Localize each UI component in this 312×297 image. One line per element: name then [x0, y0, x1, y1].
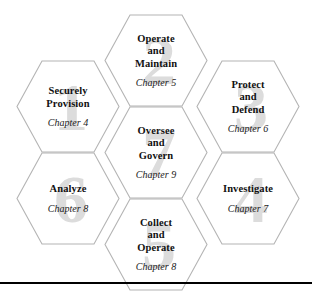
- hexagon-title: Operate and Maintain: [135, 33, 177, 71]
- hexagon-protect-and-defend[interactable]: 3 Protect and Defend Chapter 6: [196, 60, 300, 153]
- hexagon-title-line: Defend: [231, 104, 264, 117]
- hexagon-chapter-label: Chapter 8: [136, 261, 176, 272]
- hexagon-title-line: Maintain: [135, 58, 177, 71]
- hexagon-chapter-label: Chapter 9: [136, 169, 176, 180]
- hexagon-chapter-label: Chapter 5: [136, 77, 176, 88]
- hexagon-title: Securely Provision: [46, 85, 89, 110]
- hexagon-title-line: Investigate: [223, 183, 273, 196]
- hexagon-chapter-label: Chapter 6: [228, 123, 268, 134]
- hexagon-title: Analyze: [50, 183, 87, 196]
- hexagon-content: Investigate Chapter 7: [196, 152, 300, 245]
- hexagon-title-line: Operate: [137, 242, 174, 255]
- hexagon-operate-and-maintain[interactable]: 2 Operate and Maintain Chapter 5: [104, 14, 208, 107]
- hexagon-title: Collect and Operate: [137, 217, 174, 255]
- hexagon-investigate[interactable]: 4 Investigate Chapter 7: [196, 152, 300, 245]
- hexagon-title-line: Provision: [46, 98, 89, 111]
- hexagon-title-line: and: [231, 91, 264, 104]
- hexagon-title-line: Securely: [46, 85, 89, 98]
- hexagon-title-line: Govern: [138, 150, 175, 163]
- hexagon-title: Investigate: [223, 183, 273, 196]
- bottom-horizontal-rule: [0, 282, 312, 284]
- hexagon-framework-diagram: 1 Securely Provision Chapter 4 2 Operate…: [0, 0, 312, 297]
- hexagon-title: Oversee and Govern: [138, 125, 175, 163]
- hexagon-content: Oversee and Govern Chapter 9: [104, 106, 208, 199]
- hexagon-title-line: and: [135, 45, 177, 58]
- hexagon-title-line: and: [138, 137, 175, 150]
- hexagon-title-line: Collect: [137, 217, 174, 230]
- hexagon-chapter-label: Chapter 4: [48, 117, 88, 128]
- hexagon-title-line: Analyze: [50, 183, 87, 196]
- hexagon-content: Protect and Defend Chapter 6: [196, 60, 300, 153]
- hexagon-title-line: and: [137, 229, 174, 242]
- hexagon-oversee-and-govern[interactable]: 7 Oversee and Govern Chapter 9: [104, 106, 208, 199]
- hexagon-content: Operate and Maintain Chapter 5: [104, 14, 208, 107]
- hexagon-title-line: Oversee: [138, 125, 175, 138]
- hexagon-chapter-label: Chapter 8: [48, 203, 88, 214]
- hexagon-title-line: Protect: [231, 79, 264, 92]
- hexagon-chapter-label: Chapter 7: [228, 203, 268, 214]
- hexagon-title-line: Operate: [135, 33, 177, 46]
- hexagon-title: Protect and Defend: [231, 79, 264, 117]
